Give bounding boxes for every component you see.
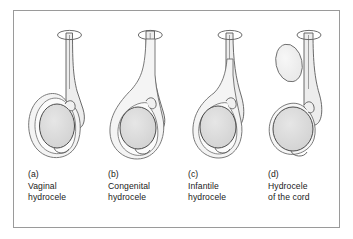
panel-tag: (d) [268, 169, 344, 181]
caption-congenital-hydrocele: (b) Congenital hydrocele [108, 169, 184, 204]
figure-frame: (a) Vaginal hydrocele [13, 10, 340, 228]
panel-congenital-hydrocele: (b) Congenital hydrocele [100, 11, 181, 227]
panel-tag: (a) [28, 169, 104, 181]
panel-hydrocele-of-the-cord: (d) Hydrocele of the cord [260, 11, 341, 227]
panel-name-line2: hydrocele [108, 192, 184, 204]
vaginal-hydrocele-diagram [20, 15, 101, 167]
hydrocele-of-the-cord-diagram [260, 15, 341, 167]
panel-name-line2: hydrocele [188, 192, 264, 204]
panel-infantile-hydrocele: (c) Infantile hydrocele [180, 11, 261, 227]
panel-name-line2: hydrocele [28, 192, 104, 204]
caption-hydrocele-of-the-cord: (d) Hydrocele of the cord [268, 169, 344, 204]
caption-infantile-hydrocele: (c) Infantile hydrocele [188, 169, 264, 204]
panel-name-line1: Infantile [188, 181, 264, 193]
panel-tag: (c) [188, 169, 264, 181]
panel-name-line1: Vaginal [28, 181, 104, 193]
congenital-hydrocele-diagram [100, 15, 181, 167]
caption-vaginal-hydrocele: (a) Vaginal hydrocele [28, 169, 104, 204]
infantile-hydrocele-diagram [180, 15, 261, 167]
panel-name-line2: of the cord [268, 192, 344, 204]
panel-name-line1: Congenital [108, 181, 184, 193]
panel-tag: (b) [108, 169, 184, 181]
panel-name-line1: Hydrocele [268, 181, 344, 193]
panel-vaginal-hydrocele: (a) Vaginal hydrocele [20, 11, 101, 227]
